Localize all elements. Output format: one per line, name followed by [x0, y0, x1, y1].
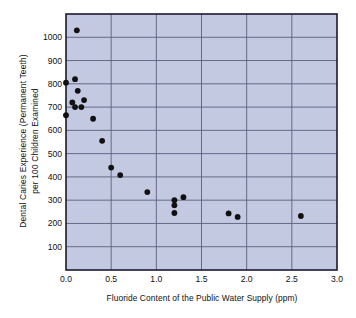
x-tick-label: 0.5	[105, 274, 117, 284]
x-tick-label: 1.0	[150, 274, 162, 284]
x-axis-title: Fluoride Content of the Public Water Sup…	[66, 293, 338, 303]
x-axis-tick-labels: 0.00.51.01.52.02.53.0	[0, 0, 356, 318]
x-tick-label: 1.5	[196, 274, 208, 284]
x-tick-label: 3.0	[331, 274, 343, 284]
x-tick-label: 0.0	[60, 274, 72, 284]
x-tick-label: 2.5	[286, 274, 298, 284]
scatter-plot-figure: Dental Caries Experience (Permanent Teet…	[0, 0, 356, 318]
x-tick-label: 2.0	[241, 274, 253, 284]
